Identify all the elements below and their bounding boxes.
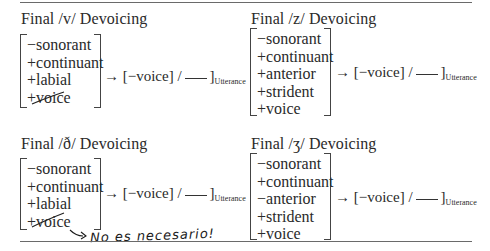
environment-blank	[416, 74, 438, 75]
environment-blank	[185, 195, 207, 196]
feature-matrix: −sonorant +continuant −anterior +striden…	[250, 153, 331, 240]
feature: +strident	[257, 208, 334, 226]
feature: −sonorant	[27, 160, 104, 178]
feature: −sonorant	[257, 30, 334, 48]
environment-label: Utterance	[215, 77, 246, 86]
top-rule	[20, 2, 472, 3]
feature: +voice	[257, 225, 334, 243]
rule-slash: /	[177, 185, 181, 201]
panel-title: Final /ʒ/ Devoicing	[251, 135, 376, 153]
panel-title: Final /v/ Devoicing	[21, 10, 147, 28]
feature: +continuant	[27, 54, 104, 72]
handwritten-annotation: No es necesario!	[90, 226, 215, 245]
arrow-icon: →	[104, 68, 119, 84]
rule-change: [−voice]	[354, 64, 405, 80]
environment-label: Utterance	[446, 198, 477, 207]
arrow-icon: →	[335, 64, 350, 80]
panel-title: Final /ð/ Devoicing	[21, 135, 147, 153]
feature: +labial	[27, 71, 104, 89]
left-bracket	[20, 34, 27, 108]
left-bracket	[250, 153, 257, 240]
feature: −anterior	[257, 190, 334, 208]
strikethrough-mark	[30, 90, 66, 106]
environment-blank	[416, 199, 438, 200]
feature-matrix: −sonorant +continuant +anterior +striden…	[250, 28, 331, 116]
feature: +labial	[27, 195, 104, 213]
left-bracket	[20, 158, 27, 230]
rule-slash: /	[408, 64, 412, 80]
feature: +continuant	[27, 178, 104, 196]
feature: −sonorant	[27, 36, 104, 54]
rule-slash: /	[408, 189, 412, 205]
strikethrough-mark	[30, 211, 66, 229]
rule-output: → [−voice] /]Utterance	[335, 189, 477, 207]
environment-label: Utterance	[446, 73, 477, 82]
rule-change: [−voice]	[354, 189, 405, 205]
rule-slash: /	[177, 68, 181, 84]
rule-output: → [−voice] /]Utterance	[335, 64, 477, 82]
feature: +voice	[257, 100, 334, 118]
environment-blank	[185, 78, 207, 79]
bottom-rule	[20, 241, 472, 242]
feature-matrix: −sonorant +continuant +labial +voice	[20, 34, 101, 108]
rule-output: → [−voice] /]Utterance	[104, 185, 246, 203]
arrow-icon: →	[335, 189, 350, 205]
feature: +strident	[257, 83, 334, 101]
rule-change: [−voice]	[123, 185, 174, 201]
feature-matrix: −sonorant +continuant +labial +voice	[20, 158, 101, 230]
rule-output: → [−voice] /]Utterance	[104, 68, 246, 86]
arrow-icon: →	[104, 185, 119, 201]
environment-label: Utterance	[215, 194, 246, 203]
panel-title: Final /z/ Devoicing	[251, 10, 376, 28]
feature: +continuant	[257, 48, 334, 66]
handwritten-arrow-icon	[68, 228, 90, 242]
left-bracket	[250, 28, 257, 116]
feature: +anterior	[257, 65, 334, 83]
feature: −sonorant	[257, 155, 334, 173]
feature: +continuant	[257, 173, 334, 191]
rule-change: [−voice]	[123, 68, 174, 84]
